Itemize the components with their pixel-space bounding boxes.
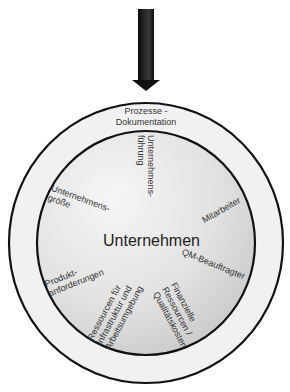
down-arrow-icon [132, 9, 160, 91]
factor-line: führung [136, 135, 146, 201]
outer-ring-label-line-2: Dokumentation [96, 117, 196, 128]
outer-ring-label: Prozesse - Dokumentation [96, 106, 196, 129]
factor-unternehmensfuehrung: Unternehmens- führung [136, 135, 156, 201]
diagram: Prozesse - Dokumentation Unternehmen Unt… [0, 0, 290, 392]
outer-ring-label-line-1: Prozesse - [96, 106, 196, 117]
factor-line: Unternehmens- [146, 135, 156, 201]
